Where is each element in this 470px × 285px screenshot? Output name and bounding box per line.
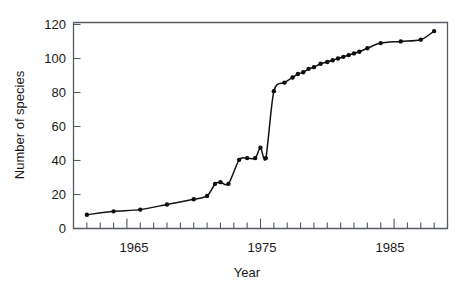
data-point bbox=[253, 156, 257, 160]
data-point bbox=[213, 182, 217, 186]
data-point bbox=[432, 29, 436, 33]
y-tick-label-80: 80 bbox=[52, 85, 66, 100]
data-point bbox=[352, 51, 356, 55]
data-point bbox=[419, 37, 423, 41]
species-year-line-chart: 0 20 40 60 80 100 120 1965 1975 1985 Yea… bbox=[0, 0, 470, 285]
data-point bbox=[312, 65, 316, 69]
data-point bbox=[301, 70, 305, 74]
data-point bbox=[325, 60, 329, 64]
data-point bbox=[341, 55, 345, 59]
data-point bbox=[346, 53, 350, 57]
data-point bbox=[330, 58, 334, 62]
data-point bbox=[399, 39, 403, 43]
data-point-group bbox=[85, 29, 437, 217]
data-point bbox=[272, 89, 276, 93]
data-point bbox=[85, 213, 89, 217]
data-point bbox=[306, 67, 310, 71]
y-tick-label-40: 40 bbox=[52, 153, 66, 168]
data-point bbox=[111, 209, 115, 213]
data-point bbox=[226, 182, 230, 186]
data-point bbox=[296, 72, 300, 76]
y-axis-tick-labels: 0 20 40 60 80 100 120 bbox=[44, 17, 66, 236]
data-point bbox=[379, 41, 383, 45]
data-curve bbox=[87, 31, 434, 215]
x-tick-label-1965: 1965 bbox=[120, 240, 149, 255]
data-point bbox=[192, 197, 196, 201]
data-point bbox=[282, 80, 286, 84]
data-point bbox=[318, 62, 322, 66]
y-tick-label-100: 100 bbox=[44, 51, 66, 66]
data-point bbox=[237, 158, 241, 162]
y-axis-title: Number of species bbox=[12, 70, 27, 179]
chart-figure: 0 20 40 60 80 100 120 1965 1975 1985 Yea… bbox=[0, 0, 470, 285]
y-tick-label-0: 0 bbox=[59, 221, 66, 236]
x-tick-label-1975: 1975 bbox=[248, 240, 277, 255]
x-axis-tick-labels: 1965 1975 1985 bbox=[120, 240, 405, 255]
x-tick-label-1985: 1985 bbox=[376, 240, 405, 255]
data-point bbox=[165, 202, 169, 206]
y-tick-label-60: 60 bbox=[52, 119, 66, 134]
x-axis-title: Year bbox=[234, 265, 261, 280]
data-point bbox=[138, 207, 142, 211]
x-axis-ticks bbox=[74, 219, 448, 229]
y-tick-label-120: 120 bbox=[44, 17, 66, 32]
data-point bbox=[258, 146, 262, 150]
data-point bbox=[365, 46, 369, 50]
data-point bbox=[336, 56, 340, 60]
data-point bbox=[245, 156, 249, 160]
data-point bbox=[218, 180, 222, 184]
data-point bbox=[357, 49, 361, 53]
y-axis-ticks bbox=[74, 25, 81, 229]
data-point bbox=[205, 194, 209, 198]
y-tick-label-20: 20 bbox=[52, 187, 66, 202]
data-point bbox=[290, 75, 294, 79]
plot-frame bbox=[74, 23, 448, 229]
data-point bbox=[264, 156, 268, 160]
